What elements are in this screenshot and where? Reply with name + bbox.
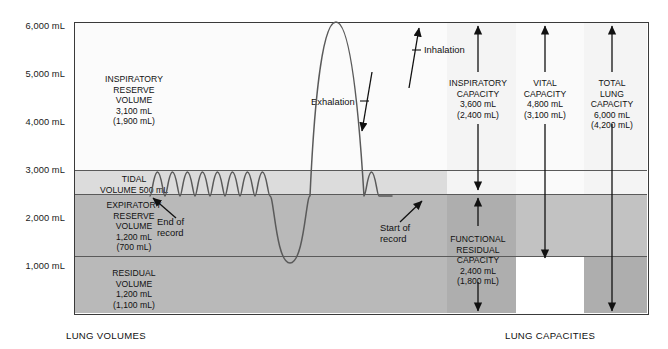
label-residual-volume: RESIDUAL VOLUME 1,200 mL (1,100 mL) [80,268,188,310]
y-tick-2000: 2,000 mL [25,213,65,223]
y-tick-3000: 3,000 mL [25,165,65,175]
y-tick-4000: 4,000 mL [25,117,65,127]
label-functional-residual-capacity: FUNCTIONAL RESIDUAL CAPACITY 2,400 mL (1… [442,234,514,287]
callout-start-of-record: Start of record [380,222,410,245]
y-tick-5000: 5,000 mL [25,69,65,79]
capacity-column-total-erv [584,195,647,257]
label-total-lung-capacity: TOTAL LUNG CAPACITY 6,000 mL (4,200 mL) [578,78,646,131]
y-axis: 6,000 mL 5,000 mL 4,000 mL 3,000 mL 2,00… [0,0,74,349]
capacity-column-vital-below [516,257,584,313]
caption-lung-volumes: LUNG VOLUMES [66,330,146,341]
callout-exhalation: Exhalation [311,96,355,107]
capacity-column-vital-tidal [516,171,584,195]
level-line-1200 [75,256,647,257]
caption-lung-capacities: LUNG CAPACITIES [505,330,595,341]
capacity-column-inspiratory-tidal [447,171,516,195]
spirogram-figure: 6,000 mL 5,000 mL 4,000 mL 3,000 mL 2,00… [0,0,668,349]
label-tidal-volume: TIDAL VOLUME 500 mL [72,174,196,195]
y-tick-6000: 6,000 mL [25,21,65,31]
level-line-3000 [75,170,647,171]
callout-inhalation: Inhalation [424,44,465,55]
callout-end-of-record: End of record [157,216,184,239]
label-vital-capacity: VITAL CAPACITY 4,800 mL (3,100 mL) [512,78,578,120]
label-inspiratory-capacity: INSPIRATORY CAPACITY 3,600 mL (2,400 mL) [442,78,514,120]
capacity-column-total-tidal [584,171,647,195]
label-inspiratory-reserve-volume: INSPIRATORY RESERVE VOLUME 3,100 mL (1,9… [80,74,188,127]
capacity-column-total-rv [584,257,647,313]
y-tick-1000: 1,000 mL [25,261,65,271]
capacity-column-vital-erv [516,195,584,257]
